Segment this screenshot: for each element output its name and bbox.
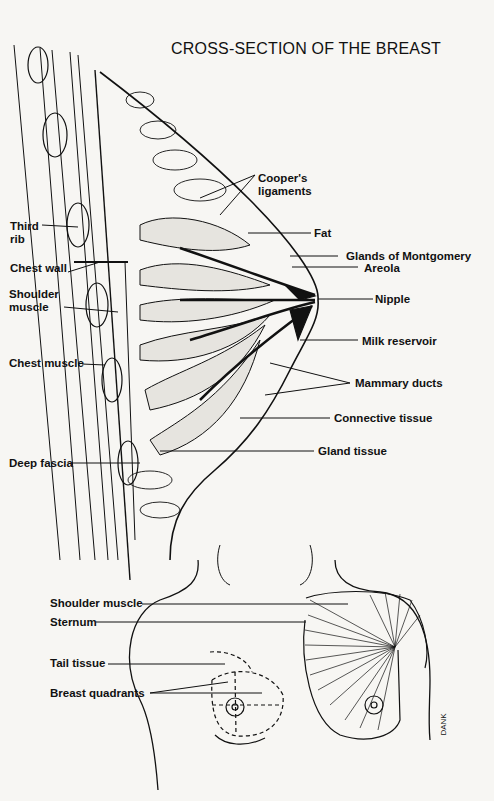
label-connective-tissue: Connective tissue (334, 412, 432, 425)
label-breast-quadrants: Breast quadrants (50, 687, 145, 700)
label-chest-wall: Chest wall (10, 262, 67, 275)
label-milk-reservoir: Milk reservoir (362, 335, 437, 348)
artist-signature: DANK (437, 713, 450, 735)
label-sternum: Sternum (50, 616, 97, 629)
label-shoulder-muscle-section: Shoulder muscle (9, 288, 59, 314)
label-coopers-ligaments: Cooper's ligaments (258, 172, 312, 198)
label-tail-tissue: Tail tissue (50, 657, 105, 670)
diagram-title: CROSS-SECTION OF THE BREAST (171, 40, 441, 58)
label-third-rib-line2: rib (10, 233, 39, 246)
label-shoulder-line2: muscle (9, 301, 59, 314)
label-fat: Fat (314, 227, 331, 240)
label-coopers-line1: Cooper's (258, 172, 312, 185)
label-chest-muscle: Chest muscle (9, 357, 84, 370)
label-deep-fascia: Deep fascia (9, 457, 73, 470)
label-gland-tissue: Gland tissue (318, 445, 387, 458)
label-coopers-line2: ligaments (258, 185, 312, 198)
label-nipple: Nipple (375, 293, 410, 306)
label-shoulder-line1: Shoulder (9, 288, 59, 301)
label-mammary-ducts: Mammary ducts (355, 377, 443, 390)
breast-anatomy-illustration (0, 0, 494, 801)
label-third-rib: Third rib (10, 220, 39, 246)
label-areola: Areola (364, 262, 400, 275)
label-third-rib-line1: Third (10, 220, 39, 233)
label-shoulder-muscle-front: Shoulder muscle (50, 597, 143, 610)
